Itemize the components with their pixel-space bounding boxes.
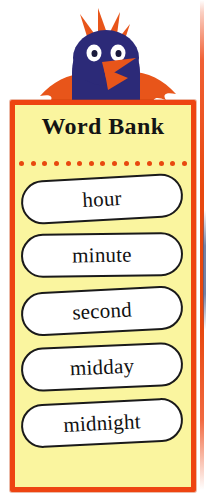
bird-eye-right [111, 45, 126, 62]
word-pill[interactable]: hour [20, 173, 184, 226]
divider-dot [42, 161, 47, 166]
word-label: midnight [63, 409, 142, 438]
word-pill[interactable]: minute [21, 232, 184, 278]
word-pill[interactable]: midday [20, 342, 184, 393]
blue-bird-icon [28, 2, 180, 114]
adjacent-panel-edge [200, 0, 206, 504]
word-pill[interactable]: second [20, 285, 184, 337]
word-label: midday [69, 353, 134, 381]
word-pill[interactable]: midnight [20, 397, 184, 449]
divider-dot [54, 161, 59, 166]
divider-dot [170, 161, 175, 166]
divider-dot [159, 161, 164, 166]
divider-dot [100, 161, 105, 166]
divider-dot [182, 161, 187, 166]
divider-dot [31, 161, 36, 166]
divider-dot [89, 161, 94, 166]
word-label: minute [72, 242, 132, 268]
divider-dot [147, 161, 152, 166]
divider-dot [124, 161, 129, 166]
word-bank-title: Word Bank [15, 113, 191, 140]
word-bank-panel: Word Bank hour minute [10, 100, 196, 492]
divider-dot [19, 161, 24, 166]
divider-dot [112, 161, 117, 166]
word-label: second [72, 297, 133, 325]
divider-dot [135, 161, 140, 166]
word-list: hour minute second midday midnight [15, 175, 191, 487]
page-scene: Word Bank hour minute [0, 0, 206, 504]
word-label: hour [82, 185, 123, 212]
bird-eye-left [87, 45, 102, 62]
divider-dot [77, 161, 82, 166]
dotted-divider [19, 161, 187, 166]
divider-dot [66, 161, 71, 166]
edge-blue-strip [203, 210, 206, 330]
